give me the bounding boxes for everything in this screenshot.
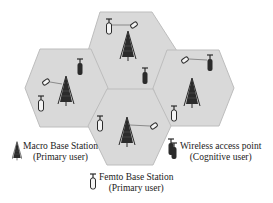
- legend-femto: Femto Base Station (Primary user): [88, 172, 173, 194]
- wireless-access-point-icon: [169, 141, 179, 161]
- femto-station-icon: [88, 172, 98, 192]
- macro-tower-icon: [12, 141, 22, 161]
- legend-wireless-title: Wireless access point: [180, 141, 261, 152]
- legend-femto-subtitle: (Primary user): [99, 183, 173, 194]
- legend-femto-title: Femto Base Station: [99, 172, 173, 183]
- legend-wireless: Wireless access point (Cognitive user): [169, 141, 261, 163]
- legend-macro-subtitle: (Primary user): [23, 152, 98, 163]
- legend-macro: Macro Base Station (Primary user): [12, 141, 98, 163]
- legend-wireless-subtitle: (Cognitive user): [180, 152, 261, 163]
- legend-macro-title: Macro Base Station: [23, 141, 98, 152]
